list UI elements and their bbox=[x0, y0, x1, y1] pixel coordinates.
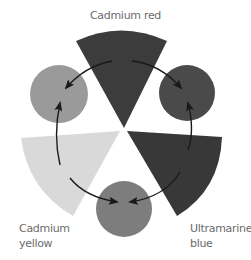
label-cadmium-yellow: Cadmium yellow bbox=[19, 221, 70, 251]
label-cadmium-yellow-line1: Cadmium bbox=[19, 221, 70, 236]
label-cadmium-yellow-line2: yellow bbox=[19, 236, 70, 251]
red-yellow-mix-circle bbox=[30, 65, 88, 123]
label-ultramarine-blue-line1: Ultramarine bbox=[190, 221, 251, 236]
label-cadmium-red: Cadmium red bbox=[0, 8, 251, 23]
yellow-blue-mix-circle bbox=[96, 181, 152, 237]
label-ultramarine-blue-line2: blue bbox=[190, 236, 251, 251]
cadmium-red-wedge bbox=[76, 31, 167, 129]
red-blue-mix-circle bbox=[159, 65, 215, 121]
label-ultramarine-blue: Ultramarine blue bbox=[190, 221, 251, 251]
